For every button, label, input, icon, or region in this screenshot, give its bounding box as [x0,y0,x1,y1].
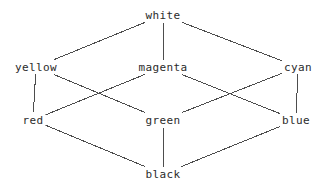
edge-magenta-blue [182,75,280,114]
node-label-yellow: yellow [13,61,59,74]
edge-cyan-blue [296,75,297,113]
edge-red-black [46,125,145,166]
edge-yellow-red [33,75,35,113]
node-label-blue: blue [280,114,312,127]
edge-blue-black [181,126,280,166]
edge-layer [0,0,329,189]
node-label-red: red [20,114,45,127]
node-label-green: green [143,114,182,127]
node-label-white: white [143,9,182,22]
node-label-cyan: cyan [282,61,314,74]
edge-cyan-green [182,73,282,112]
node-label-magenta: magenta [136,61,189,74]
color-lattice-diagram: whiteyellowmagentacyanredgreenblueblack [0,0,329,189]
edge-white-cyan [182,22,282,61]
edge-magenta-red [46,75,145,115]
edge-white-yellow [54,23,144,60]
node-label-black: black [143,168,182,181]
